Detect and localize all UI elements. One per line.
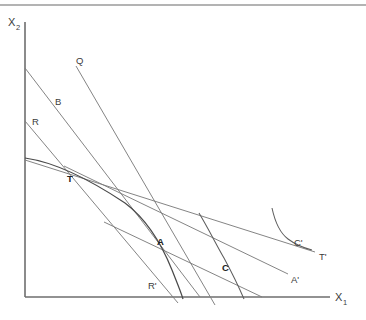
label-line-A-prime: A' [291, 274, 299, 285]
label-line-R-prime: R' [148, 280, 157, 291]
label-point-C: C [222, 262, 229, 273]
curve-through-C-prime [272, 208, 312, 250]
y-axis-label-subscript: 2 [16, 23, 20, 32]
x-axis-label: X [335, 291, 343, 303]
economics-diagram: X 2 X 1 B Q R R' A' T' C' T A C [0, 0, 366, 320]
line-B [25, 68, 200, 297]
label-line-Q: Q [76, 55, 83, 66]
label-point-A: A [157, 236, 164, 247]
line-R [25, 121, 178, 303]
label-line-T-prime: T' [319, 251, 327, 262]
label-point-T: T [67, 173, 73, 184]
x-axis-label-subscript: 1 [343, 298, 347, 307]
curve-through-T-and-A [25, 158, 183, 299]
line-A-prime [64, 166, 288, 274]
label-point-C-prime: C' [294, 237, 303, 248]
label-line-R: R [32, 116, 39, 127]
y-axis-label: X [8, 16, 16, 28]
label-line-B: B [55, 96, 61, 107]
diagram-canvas: X 2 X 1 B Q R R' A' T' C' T A C [0, 0, 366, 320]
curve-through-C [199, 213, 244, 299]
